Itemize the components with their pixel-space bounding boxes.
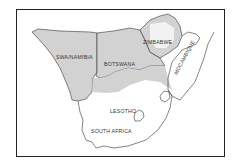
southern-africa-map: SWA/NAMIBIA BOTSWANA ZIMBABWE MOCAMBIQUE…: [0, 0, 237, 168]
label-namibia: SWA/NAMIBIA: [56, 54, 93, 60]
label-botswana: BOTSWANA: [104, 61, 135, 67]
label-zimbabwe: ZIMBABWE: [143, 39, 173, 45]
label-lesotho: LESOTHO: [110, 108, 136, 114]
label-south-africa: SOUTH AFRICA: [91, 128, 132, 134]
